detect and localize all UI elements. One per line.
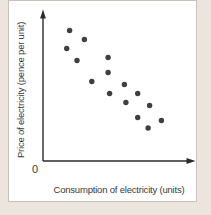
y-axis-arrowhead-icon (40, 10, 46, 19)
data-point (74, 58, 79, 63)
data-point (107, 91, 112, 96)
x-axis-arrowhead-icon (187, 158, 196, 164)
y-axis-label: Price of electricity (pence per unit) (15, 12, 26, 168)
data-point (105, 70, 110, 75)
data-point (82, 37, 87, 42)
data-point (145, 125, 150, 130)
data-point (123, 100, 128, 105)
data-point (135, 115, 140, 120)
data-point (64, 46, 69, 51)
data-point (122, 82, 127, 87)
chart-panel: Price of electricity (pence per unit) 0 … (8, 0, 197, 202)
data-point (67, 28, 72, 33)
data-point (105, 55, 110, 60)
data-point (135, 91, 140, 96)
origin-label: 0 (29, 163, 41, 175)
data-point (159, 118, 164, 123)
data-point (147, 103, 152, 108)
figure-page: Price of electricity (pence per unit) 0 … (0, 0, 211, 215)
scatter-points (64, 28, 164, 131)
x-axis-label: Consumption of electricity (units) (39, 184, 199, 195)
data-point (89, 79, 94, 84)
